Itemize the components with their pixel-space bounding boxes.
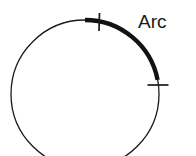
arc-diagram-figure: Arc bbox=[0, 0, 196, 156]
arc-label: Arc bbox=[138, 11, 167, 32]
arc-start-tick bbox=[99, 13, 100, 31]
diagram-canvas: Arc bbox=[0, 0, 196, 156]
